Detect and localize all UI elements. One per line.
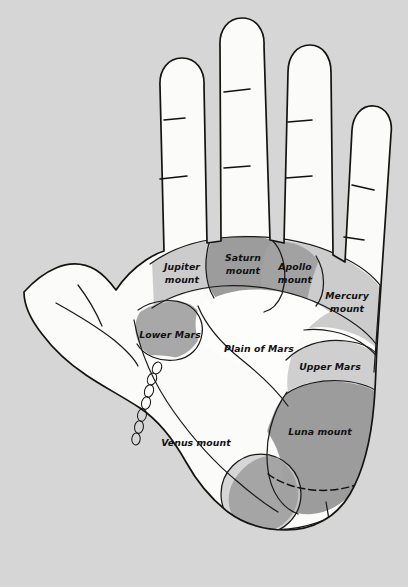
wrist-tail-left xyxy=(186,506,190,578)
palmistry-diagram: Jupiter mount Saturn mount Apollo mount … xyxy=(0,0,408,587)
palm-illustration: Jupiter mount Saturn mount Apollo mount … xyxy=(0,0,408,587)
